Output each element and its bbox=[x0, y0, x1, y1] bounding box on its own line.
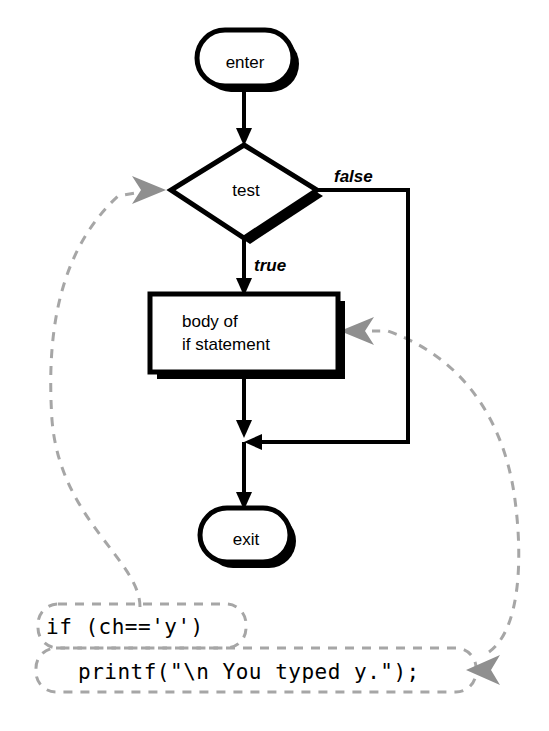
body-label-line1: body of bbox=[182, 312, 238, 331]
edge-label-true: true bbox=[254, 256, 286, 275]
flowchart-page: enter test false true body of if stateme… bbox=[0, 0, 549, 731]
node-enter[interactable]: enter bbox=[197, 30, 299, 92]
body-shape bbox=[150, 294, 338, 372]
code-line-condition: if (ch=='y') bbox=[46, 615, 204, 639]
node-exit[interactable]: exit bbox=[200, 508, 296, 568]
enter-label: enter bbox=[226, 53, 265, 72]
arrowhead-false-to-merge-icon bbox=[244, 434, 262, 450]
node-body[interactable]: body of if statement bbox=[150, 294, 345, 379]
exit-label: exit bbox=[233, 530, 260, 549]
code-line-statement: printf("\n You typed y."); bbox=[78, 660, 420, 684]
edge-label-false: false bbox=[334, 167, 373, 186]
test-label: test bbox=[232, 181, 260, 200]
dashed-arrowhead-to-body-icon bbox=[340, 317, 374, 345]
dashed-arrowhead-to-printf-icon bbox=[466, 655, 500, 685]
flowchart-canvas: enter test false true body of if stateme… bbox=[0, 0, 549, 731]
dashed-link-body-to-statement bbox=[372, 331, 519, 652]
body-label-line2: if statement bbox=[182, 335, 270, 354]
dashed-link-condition-to-test bbox=[51, 190, 152, 607]
node-test[interactable]: test bbox=[171, 145, 323, 244]
arrowhead-body-to-merge-icon bbox=[236, 420, 252, 438]
dashed-arrowhead-to-test-icon bbox=[132, 176, 166, 204]
